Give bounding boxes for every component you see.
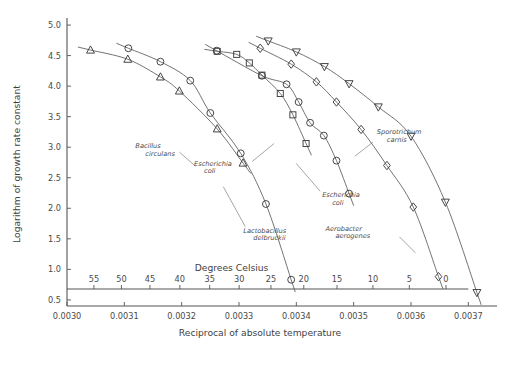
species-leader-line — [355, 142, 373, 156]
celsius-tick-label: 55 — [89, 274, 99, 284]
y-tick-label: 4.5 — [48, 51, 61, 61]
celsius-tick-label: 20 — [299, 274, 309, 284]
species-leader-line — [296, 163, 320, 191]
x-tick-label: 0.0034 — [282, 311, 311, 321]
data-point-triangle-down — [292, 49, 300, 56]
y-tick-label: 2.5 — [48, 173, 61, 183]
species-leader-line — [223, 187, 245, 227]
arrhenius-growth-rate-chart: 5.04.54.03.53.02.52.01.51.00.5Logarithm … — [0, 0, 507, 365]
series-curve-extension-start — [249, 42, 261, 48]
y-axis-title: Logarithm of growth rate constant — [11, 85, 22, 243]
celsius-tick-label: 35 — [204, 274, 214, 284]
y-tick-label: 2.0 — [48, 203, 61, 213]
series-curve-extension-start — [256, 36, 268, 41]
celsius-tick-label: 30 — [234, 274, 244, 284]
x-tick-label: 0.0033 — [225, 311, 254, 321]
celsius-axis-title: Degrees Celsius — [195, 262, 269, 273]
species-label-line2: coli — [332, 199, 343, 207]
species-label-line2: delbruckii — [253, 234, 285, 242]
series-curve — [91, 50, 244, 163]
x-axis-title: Reciprocal of absolute temperature — [179, 327, 342, 338]
celsius-tick-label: 15 — [332, 274, 342, 284]
y-tick-label: 5.0 — [48, 20, 61, 30]
x-tick-label: 0.0036 — [397, 311, 426, 321]
y-tick-label: 3.5 — [48, 112, 61, 122]
species-leader-line — [179, 152, 195, 166]
data-point-triangle-down — [264, 38, 272, 45]
y-tick-label: 1.0 — [48, 264, 61, 274]
celsius-tick-label: 25 — [266, 274, 276, 284]
x-tick-label: 0.0030 — [53, 311, 82, 321]
species-leader-line — [399, 237, 415, 253]
y-tick-label: 1.5 — [48, 234, 61, 244]
x-tick-label: 0.0037 — [454, 311, 483, 321]
species-label-line2: carnis — [387, 136, 407, 144]
series-curve-extension-end — [291, 280, 295, 292]
y-tick-label: 0.5 — [48, 295, 61, 305]
series-curve — [217, 51, 349, 194]
data-point-triangle-up — [175, 87, 183, 94]
celsius-tick-label: 10 — [368, 274, 378, 284]
celsius-tick-label: 40 — [175, 274, 185, 284]
y-tick-label: 3.0 — [48, 142, 61, 152]
series-curve — [268, 41, 477, 293]
x-tick-label: 0.0035 — [339, 311, 368, 321]
series-curve-extension-end — [477, 293, 481, 305]
species-label-line2: circulans — [145, 150, 175, 158]
celsius-tick-label: 45 — [145, 274, 155, 284]
chart-figure: 5.04.54.03.53.02.52.01.51.00.5Logarithm … — [0, 0, 507, 365]
x-tick-label: 0.0032 — [167, 311, 196, 321]
series-curve — [260, 48, 438, 276]
species-label-line2: aerogenes — [335, 232, 370, 240]
species-leader-line — [252, 144, 274, 162]
celsius-tick-label: 50 — [116, 274, 126, 284]
x-tick-label: 0.0031 — [110, 311, 139, 321]
species-label-line2: coli — [204, 167, 215, 175]
y-tick-label: 4.0 — [48, 81, 61, 91]
celsius-tick-label: 0 — [443, 274, 448, 284]
celsius-tick-label: 5 — [407, 274, 412, 284]
